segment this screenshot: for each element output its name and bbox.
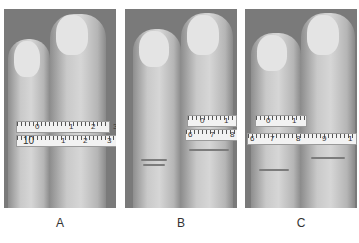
measuring-tape-lower: 6 7 8 <box>185 129 237 141</box>
photo-panel-c: 0 1 6 7 8 9 1 <box>245 9 357 208</box>
photo-panel-a: 0 1 2 3 10 1 2 3 <box>4 9 116 208</box>
measuring-tape-lower: 6 7 8 9 1 <box>247 133 357 145</box>
panel-label-c: C <box>245 216 357 230</box>
finger-crease <box>311 157 345 159</box>
fingernail <box>56 15 88 55</box>
knuckle-swelling <box>141 159 167 161</box>
fingernail <box>187 15 219 55</box>
fingernail <box>257 35 287 71</box>
panel-label-b: B <box>125 216 237 230</box>
panel-label-a: A <box>4 216 116 230</box>
knuckle-swelling <box>143 164 165 166</box>
measuring-tape-upper: 0 1 <box>187 115 237 127</box>
finger-crease <box>189 149 229 151</box>
measuring-tape-upper: 0 1 <box>255 115 307 127</box>
measuring-tape-upper: 0 1 2 3 <box>16 121 110 133</box>
fingernail <box>307 15 339 55</box>
fingernail <box>14 41 40 77</box>
photo-panel-b: 0 1 6 7 8 <box>125 9 237 208</box>
fingernail <box>139 31 169 67</box>
measuring-tape-lower: 10 1 2 3 <box>16 135 116 147</box>
finger-crease <box>259 169 289 171</box>
